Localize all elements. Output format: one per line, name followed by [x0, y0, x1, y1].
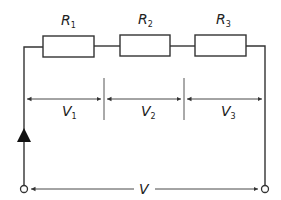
label-v3: V3: [221, 103, 236, 121]
label-r3: R3: [216, 11, 231, 29]
label-supply-voltage: V: [139, 181, 150, 197]
resistor-r2: [120, 35, 170, 56]
label-v1: V1: [62, 103, 77, 121]
current-arrow-icon: [17, 128, 31, 142]
label-r1: R1: [61, 12, 76, 30]
series-circuit-diagram: R1 R2 R3 V1 V2 V3 V: [0, 0, 281, 200]
label-v2: V2: [141, 103, 156, 121]
resistor-r3: [195, 35, 246, 56]
label-r2: R2: [138, 11, 153, 29]
terminal-left: [21, 186, 28, 193]
terminal-right: [262, 186, 269, 193]
resistor-r1: [43, 36, 94, 57]
